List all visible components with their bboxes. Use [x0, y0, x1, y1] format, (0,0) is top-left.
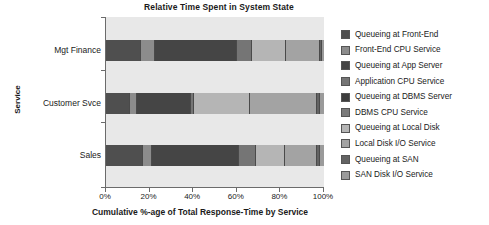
legend-swatch-san-disk-io-icon — [341, 171, 350, 180]
bar-segment — [322, 40, 324, 61]
y-axis-category-label: Sales — [11, 150, 101, 160]
y-axis-tick — [101, 17, 105, 18]
legend-swatch-queueing-local-disk-icon — [341, 124, 350, 133]
bar-segment — [143, 145, 152, 166]
bar-segment — [250, 93, 318, 114]
legend-item-label: DBMS CPU Service — [355, 108, 428, 118]
bars-layer — [106, 17, 324, 187]
bar-segment — [285, 145, 318, 166]
legend-item-label: Application CPU Service — [355, 77, 444, 87]
bar-segment — [286, 40, 320, 61]
legend-swatch-local-disk-io-icon — [341, 139, 350, 148]
x-axis-tick-label: 40% — [172, 192, 212, 201]
bar-segment — [194, 93, 250, 114]
legend-swatch-application-cpu-icon — [341, 77, 350, 86]
legend-swatch-queueing-dbms-icon — [341, 93, 350, 102]
bar-segment — [152, 145, 239, 166]
bar-segment — [106, 145, 143, 166]
x-axis-tick-label: 20% — [129, 192, 169, 201]
legend-item-label: Front-End CPU Service — [355, 45, 441, 55]
legend-item-label: Queueing at App Server — [355, 61, 442, 71]
chart-title: Relative Time Spent in System State — [105, 2, 333, 13]
legend-item-label: Queueing at SAN — [355, 155, 419, 165]
bar-row — [106, 40, 324, 61]
legend-item[interactable]: Queueing at SAN — [341, 152, 489, 168]
bar-segment — [252, 40, 286, 61]
y-axis-tick — [101, 70, 105, 71]
bar-segment — [141, 40, 155, 61]
legend-item[interactable]: DBMS CPU Service — [341, 105, 489, 121]
legend-item-label: Queueing at Local Disk — [355, 123, 440, 133]
legend-item-label: Queueing at DBMS Server — [355, 92, 452, 102]
y-axis-category-label: Mgt Finance — [11, 45, 101, 55]
bar-segment — [239, 145, 256, 166]
x-axis-tick-label: 0% — [85, 192, 125, 201]
legend-item[interactable]: Queueing at Local Disk — [341, 121, 489, 137]
x-axis-tick-label: 80% — [259, 192, 299, 201]
bar-segment — [320, 145, 324, 166]
bar-segment — [237, 40, 252, 61]
y-axis-tick — [101, 187, 105, 188]
legend-item-label: SAN Disk I/O Service — [355, 170, 433, 180]
y-axis-category-label: Customer Svce — [11, 98, 101, 108]
chart-legend: Queueing at Front-EndFront-End CPU Servi… — [341, 27, 489, 183]
bar-segment — [256, 145, 284, 166]
legend-swatch-queueing-front-end-icon — [341, 30, 350, 39]
legend-swatch-queueing-app-server-icon — [341, 61, 350, 70]
x-axis-tick-label: 60% — [216, 192, 256, 201]
plot-area — [105, 17, 324, 187]
bar-row — [106, 93, 324, 114]
legend-item[interactable]: Queueing at Front-End — [341, 27, 489, 43]
legend-item[interactable]: Front-End CPU Service — [341, 43, 489, 59]
legend-item-label: Local Disk I/O Service — [355, 139, 436, 149]
bar-segment — [130, 93, 137, 114]
bar-row — [106, 145, 324, 166]
x-axis-line — [105, 187, 324, 188]
y-axis-tick — [101, 122, 105, 123]
bar-segment — [155, 40, 237, 61]
legend-item[interactable]: Queueing at App Server — [341, 58, 489, 74]
bar-segment — [137, 93, 192, 114]
x-axis-title: Cumulative %-age of Total Response-Time … — [60, 207, 340, 217]
legend-swatch-front-end-cpu-icon — [341, 46, 350, 55]
legend-item[interactable]: Local Disk I/O Service — [341, 136, 489, 152]
chart-container: Relative Time Spent in System State Serv… — [0, 0, 489, 225]
bar-segment — [106, 40, 141, 61]
bar-segment — [106, 93, 130, 114]
legend-swatch-dbms-cpu-icon — [341, 108, 350, 117]
legend-item[interactable]: Application CPU Service — [341, 74, 489, 90]
x-axis-tick-label: 100% — [303, 192, 343, 201]
legend-item[interactable]: SAN Disk I/O Service — [341, 167, 489, 183]
legend-swatch-queueing-san-icon — [341, 155, 350, 164]
bar-segment — [320, 93, 324, 114]
legend-item-label: Queueing at Front-End — [355, 30, 438, 40]
legend-item[interactable]: Queueing at DBMS Server — [341, 89, 489, 105]
